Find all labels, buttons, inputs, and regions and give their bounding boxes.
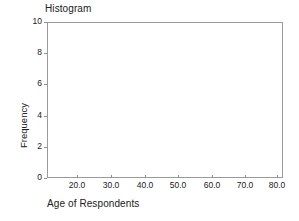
y-tick-label: 10 [33,16,42,27]
x-tick-label: 70.0 [229,180,261,191]
plot-area [48,23,282,177]
x-tick-label: 80.0 [261,180,293,191]
y-tick-label: 2 [37,141,42,152]
y-tick-mark [44,22,47,23]
x-tick-label: 50.0 [162,180,194,191]
y-tick-label: 8 [37,47,42,58]
y-tick-label: 0 [37,172,42,183]
x-tick-mark [212,175,213,178]
y-tick-mark [44,178,47,179]
x-tick-label: 30.0 [95,180,127,191]
x-tick-mark [178,175,179,178]
chart-title: Histogram [45,3,91,15]
y-tick-mark [44,53,47,54]
y-tick-mark [44,84,47,85]
x-axis-title: Age of Respondents [47,198,139,210]
x-tick-mark [77,175,78,178]
y-tick-mark [44,116,47,117]
y-axis-title: Frequency [18,95,29,157]
y-tick-mark [44,147,47,148]
x-tick-mark [145,175,146,178]
y-tick-label: 4 [37,110,42,121]
y-tick-label: 6 [37,78,42,89]
x-tick-mark [111,175,112,178]
x-tick-label: 20.0 [61,180,93,191]
x-tick-label: 60.0 [196,180,228,191]
x-tick-label: 40.0 [129,180,161,191]
histogram-figure: Histogram Frequency 10 8 6 4 2 0 20.0 30… [0,0,299,221]
x-tick-mark [245,175,246,178]
x-tick-mark [277,175,278,178]
